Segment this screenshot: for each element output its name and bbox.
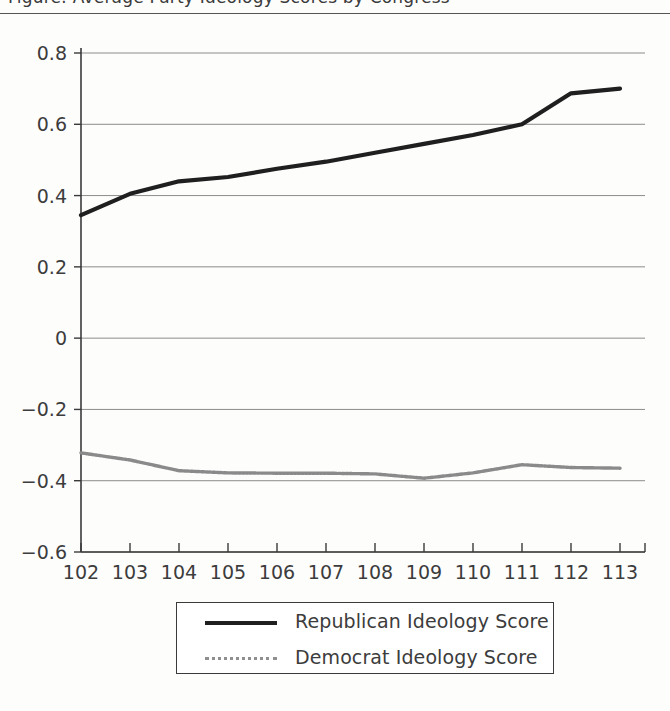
x-tick-label: 112 xyxy=(553,561,589,583)
title-divider xyxy=(0,13,670,14)
gridlines xyxy=(81,53,645,552)
x-tick-label: 107 xyxy=(308,561,344,583)
chart-svg: 0.80.60.40.20−0.2−0.4−0.6 10210310410510… xyxy=(0,18,670,588)
x-tick-label: 109 xyxy=(406,561,442,583)
x-tick-label: 104 xyxy=(161,561,197,583)
chart-legend: Republican Ideology Score Democrat Ideol… xyxy=(176,602,554,674)
y-tick-label: 0.4 xyxy=(37,185,67,207)
y-tick-label: 0.8 xyxy=(37,42,67,64)
y-tick-label: 0.2 xyxy=(37,256,67,278)
legend-entry-democrat: Democrat Ideology Score xyxy=(177,639,553,675)
y-tick-label: −0.4 xyxy=(21,470,67,492)
x-tick-label: 113 xyxy=(602,561,638,583)
x-axis: 102103104105106107108109110111112113 xyxy=(63,543,645,583)
chart-page: Figure: Average Party Ideology Scores by… xyxy=(0,0,670,711)
x-tick-label: 103 xyxy=(112,561,148,583)
x-tick-label: 108 xyxy=(357,561,393,583)
y-tick-label: 0.6 xyxy=(37,113,67,135)
y-tick-label: −0.2 xyxy=(21,398,67,420)
legend-label-democrat: Democrat Ideology Score xyxy=(295,646,538,668)
legend-line-swatch-democrat xyxy=(205,650,277,664)
y-tick-label: 0 xyxy=(55,327,67,349)
x-tick-label: 102 xyxy=(63,561,99,583)
democrat-series-line xyxy=(81,453,620,478)
x-tick-label: 110 xyxy=(455,561,491,583)
legend-entry-republican: Republican Ideology Score xyxy=(177,603,553,639)
legend-label-republican: Republican Ideology Score xyxy=(295,610,549,632)
republican-series-line xyxy=(81,89,620,216)
y-tick-label: −0.6 xyxy=(21,541,67,563)
x-tick-label: 105 xyxy=(210,561,246,583)
y-axis-ticks: 0.80.60.40.20−0.2−0.4−0.6 xyxy=(21,42,81,563)
page-title-strip: Figure: Average Party Ideology Scores by… xyxy=(0,0,670,13)
x-tick-label: 111 xyxy=(504,561,540,583)
ideology-line-chart: 0.80.60.40.20−0.2−0.4−0.6 10210310410510… xyxy=(0,18,670,588)
x-tick-label: 106 xyxy=(259,561,295,583)
page-title: Figure: Average Party Ideology Scores by… xyxy=(8,0,450,7)
legend-line-swatch-republican xyxy=(205,614,277,628)
